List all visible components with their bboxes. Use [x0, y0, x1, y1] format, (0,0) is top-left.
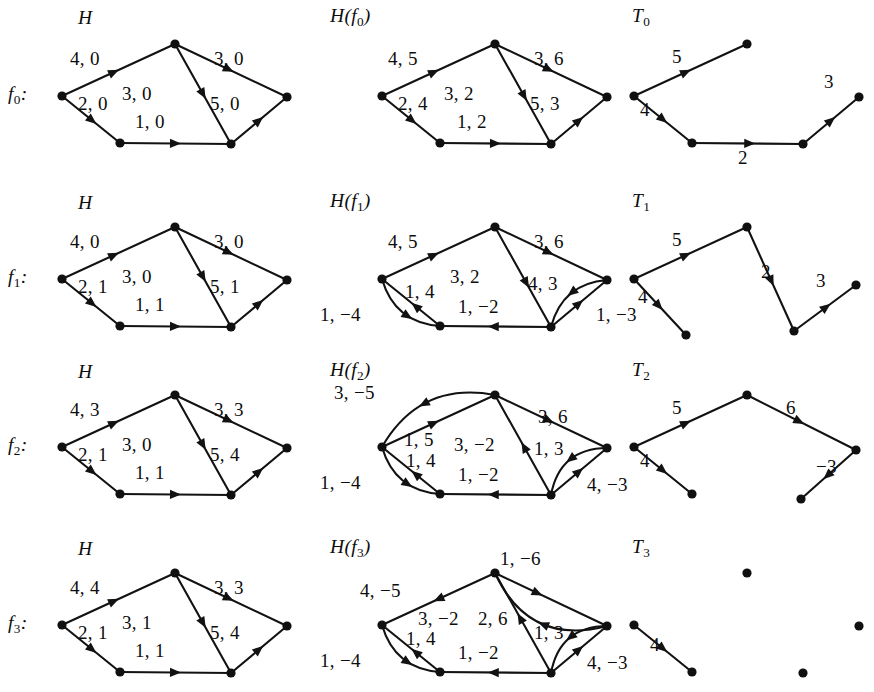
graph-vertex [742, 568, 751, 577]
graph-vertex [629, 620, 638, 629]
graph-vertex [687, 667, 696, 676]
graph-vertex [854, 621, 863, 630]
graph-vertex [798, 668, 807, 677]
figure-sheet: f0:HH(f0)T04, 02, 03, 03, 01, 05, 04, 52… [0, 0, 874, 692]
edge-label-T-s-bl-row3: 4 [650, 635, 660, 654]
graph-T-row3 [0, 0, 874, 692]
